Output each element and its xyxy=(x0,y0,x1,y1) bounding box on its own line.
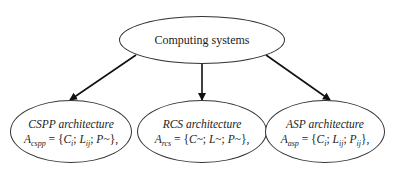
root-node-computing-systems: Computing systems xyxy=(119,16,285,64)
node-formula: Acspp = {Ci; Lij; P~}, xyxy=(24,132,118,147)
node-title: RCS architecture xyxy=(163,117,242,132)
node-formula: Aasp = {Ci; Lij; Pij}, xyxy=(281,132,370,147)
root-label: Computing systems xyxy=(154,33,249,48)
node-formula: Arcs = {C~; L~; P~}, xyxy=(155,132,250,147)
node-title: CSPP architecture xyxy=(28,117,114,132)
node-title: ASP architecture xyxy=(286,117,364,132)
node-asp-architecture: ASP architecture Aasp = {Ci; Lij; Pij}, xyxy=(265,100,385,163)
node-cspp-architecture: CSPP architecture Acspp = {Ci; Lij; P~}, xyxy=(10,100,132,163)
arrow-to-cspp xyxy=(70,55,136,100)
arrow-to-asp xyxy=(266,55,330,100)
node-rcs-architecture: RCS architecture Arcs = {C~; L~; P~}, xyxy=(137,100,267,163)
